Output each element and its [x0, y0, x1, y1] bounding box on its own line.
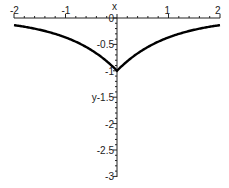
y-tick-label: 0 — [108, 13, 114, 24]
y-tick-label: -2 — [105, 119, 114, 130]
x-tick-label: -1 — [62, 5, 71, 16]
x-tick-label: -2 — [10, 5, 19, 16]
y-tick-label: -2.5 — [97, 145, 115, 156]
x-axis-label: x — [112, 1, 117, 12]
y-tick-label: -3 — [105, 171, 114, 182]
x-tick-label: 2 — [215, 5, 221, 16]
x-tick-label: 1 — [165, 5, 171, 16]
y-tick-label: y-1.5 — [92, 92, 115, 103]
plot-canvas: -2-1120-0.5-1y-1.5-2-2.5-3 x — [0, 0, 229, 188]
y-tick-label: -0.5 — [97, 39, 115, 50]
